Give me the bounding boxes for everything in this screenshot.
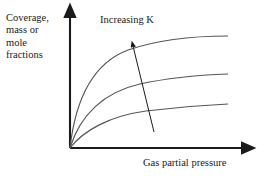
x-axis-label: Gas partial pressure: [143, 157, 226, 169]
adsorption-isotherm-figure: Coverage, mass or mole fractions Gas par…: [0, 0, 270, 179]
increasing-k-annotation: Increasing K: [100, 14, 154, 26]
isotherm-curve-high-k: [70, 36, 228, 148]
increasing-k-arrow-icon: [133, 46, 154, 132]
y-axis-label: Coverage, mass or mole fractions: [6, 12, 49, 62]
